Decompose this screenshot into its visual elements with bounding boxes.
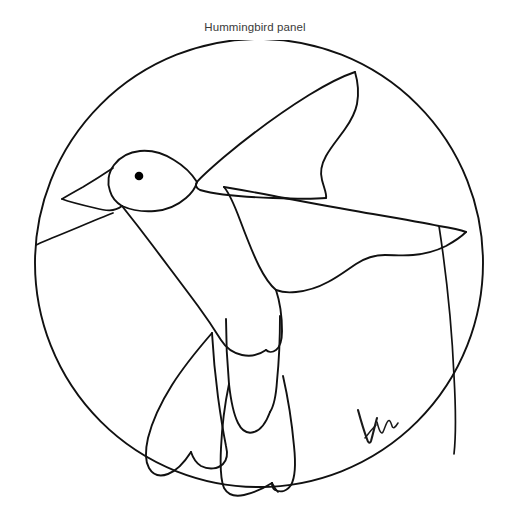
background-lead-line-left bbox=[36, 213, 113, 245]
bird-body-breast bbox=[122, 206, 266, 356]
background-lead-line-right bbox=[439, 226, 456, 454]
tail-feather-center-right bbox=[270, 316, 280, 412]
panel-page: Hummingbird panel bbox=[0, 0, 510, 514]
bird-eye-icon bbox=[135, 172, 144, 181]
upper-wing-leading-edge bbox=[196, 72, 355, 199]
upper-wing-trailing-edge bbox=[321, 72, 358, 198]
bird-beak-upper bbox=[62, 168, 113, 199]
bird-head-lower bbox=[122, 182, 197, 211]
artist-signature bbox=[358, 410, 398, 443]
bird-beak-lower bbox=[62, 199, 122, 210]
tail-feather-left-outer bbox=[146, 333, 212, 475]
lower-wing-leading-edge bbox=[224, 187, 466, 232]
lower-wing-trailing-edge bbox=[276, 232, 466, 292]
page-title: Hummingbird panel bbox=[0, 0, 510, 34]
tail-feather-center-left bbox=[226, 319, 270, 433]
lower-wing-root bbox=[224, 187, 276, 290]
hummingbird-artwork bbox=[0, 40, 510, 514]
bird-head-upper bbox=[108, 151, 197, 206]
tail-feather-right-outer bbox=[221, 384, 272, 496]
circle-border-icon bbox=[35, 40, 483, 487]
